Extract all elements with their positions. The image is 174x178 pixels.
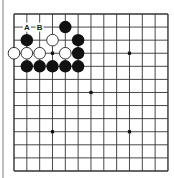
go-board[interactable]: AB — [0, 0, 174, 178]
black-stone[interactable] — [72, 47, 84, 59]
black-stone[interactable] — [59, 21, 71, 33]
point-label-a: A — [24, 23, 30, 32]
white-stone[interactable] — [47, 34, 59, 46]
star-point — [128, 130, 131, 133]
black-stone[interactable] — [59, 60, 71, 72]
black-stone[interactable] — [46, 60, 58, 72]
star-point — [51, 130, 54, 133]
white-stone[interactable] — [21, 47, 33, 59]
white-stone[interactable] — [8, 47, 20, 59]
star-point — [128, 52, 131, 55]
white-stone[interactable] — [34, 47, 46, 59]
point-label-b: B — [37, 23, 43, 32]
star-point — [51, 52, 54, 55]
white-stone[interactable] — [60, 47, 72, 59]
black-stone[interactable] — [21, 60, 33, 72]
go-board-diagram[interactable]: AB — [0, 0, 174, 178]
star-point — [89, 91, 92, 94]
black-stone[interactable] — [72, 34, 84, 46]
black-stone[interactable] — [33, 60, 45, 72]
black-stone[interactable] — [21, 34, 33, 46]
black-stone[interactable] — [72, 60, 84, 72]
